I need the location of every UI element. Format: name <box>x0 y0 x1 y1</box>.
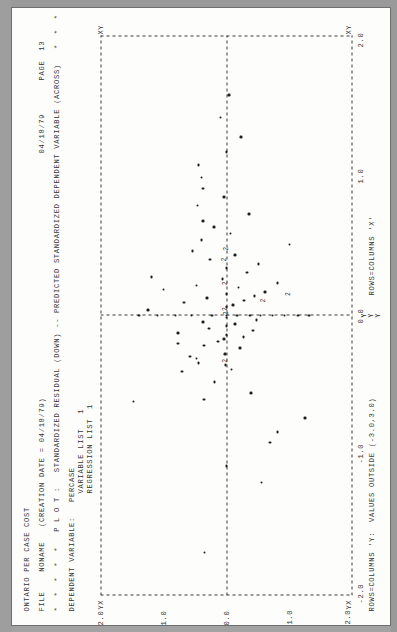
corner-mark-topleft: YX <box>97 600 105 610</box>
page-label: PAGE 13 <box>38 41 47 81</box>
footer-rows-columns-y: ROWS=COLUMNS 'Y: VALUES OUTSIDE (-3.0,3.… <box>368 397 377 611</box>
data-point <box>271 314 274 317</box>
data-point <box>223 196 226 199</box>
overlap-point-marker: 2 <box>222 258 228 262</box>
scan-border-top <box>0 0 397 7</box>
data-point <box>259 314 262 317</box>
data-point <box>297 314 300 317</box>
data-point <box>269 441 272 444</box>
x-tick-label-3: 1.0 <box>357 169 365 184</box>
report-title: ONTARIO PER CASE COST <box>23 507 32 612</box>
y-tick-label-0: 2.0 <box>97 611 105 626</box>
data-point <box>240 135 243 138</box>
file-creation-line: FILE NONAME (CREATION DATE = 04/18/79) <box>38 397 47 611</box>
y-tick-label-4: -2.0 <box>344 610 352 626</box>
data-point <box>189 355 192 358</box>
data-point <box>249 392 252 395</box>
overlap-point-marker: 2 <box>223 281 229 285</box>
data-point <box>242 336 245 339</box>
data-point <box>197 362 200 365</box>
printout-page: ONTARIO PER CASE COST FILE NONAME (CREAT… <box>11 7 391 626</box>
data-point <box>203 398 206 401</box>
data-point <box>237 286 240 289</box>
data-point <box>260 481 263 484</box>
data-point <box>308 314 311 317</box>
data-point <box>177 331 180 334</box>
data-point <box>234 323 237 326</box>
data-point <box>247 213 250 216</box>
data-point <box>239 347 242 350</box>
data-point <box>257 263 260 266</box>
data-point <box>236 314 239 317</box>
data-point <box>150 275 153 278</box>
data-point <box>246 271 249 274</box>
data-point <box>223 338 226 341</box>
data-point <box>229 232 232 235</box>
scan-border-right <box>391 0 397 632</box>
data-point <box>216 340 219 343</box>
overlap-point-marker: 2 <box>223 247 229 251</box>
regression-list-line: REGRESSION LIST 1 <box>86 404 95 494</box>
corner-mark-topright: XY <box>97 25 105 35</box>
data-point <box>202 219 205 222</box>
out-of-range-marker: Y <box>376 314 382 318</box>
residual-scatterplot: YX YX XY XY -2.0 -1.0 0.0 1.0 2.0 2.0 1.… <box>101 36 353 596</box>
variable-list-line: VARIABLE LIST 1 <box>77 409 86 494</box>
data-point <box>195 357 198 360</box>
overlap-point-marker: 2 <box>224 312 230 316</box>
data-point <box>191 250 194 253</box>
data-point <box>255 319 258 322</box>
data-point <box>276 282 279 285</box>
data-point <box>225 151 228 154</box>
data-point <box>202 187 205 190</box>
data-point <box>177 342 180 345</box>
data-point <box>228 93 231 96</box>
y-tick-label-2: 0.0 <box>223 611 231 626</box>
data-point <box>248 314 251 317</box>
data-point <box>206 297 209 300</box>
data-point <box>183 301 186 304</box>
scan-border-bottom <box>0 626 397 632</box>
data-point <box>253 295 256 298</box>
data-point <box>132 400 135 403</box>
scan-border-left <box>0 0 11 632</box>
data-point <box>252 329 255 332</box>
data-point <box>213 381 216 384</box>
overlap-point-marker: 2 <box>286 292 292 296</box>
footer-rows-columns-x: ROWS=COLUMNS 'X' <box>368 216 377 296</box>
data-point <box>200 239 203 242</box>
data-point <box>195 284 198 287</box>
printout-listing: ONTARIO PER CASE COST FILE NONAME (CREAT… <box>13 9 391 626</box>
x-tick-label-1: -1.0 <box>357 444 365 464</box>
data-point <box>234 254 237 257</box>
corner-mark-bottomleft: YX <box>345 600 353 610</box>
y-tick-label-1: 1.0 <box>160 611 168 626</box>
plot-banner-line: * * * * * P L O T : STANDARDIZED RESIDUA… <box>53 7 62 612</box>
data-point <box>276 431 279 434</box>
data-point <box>230 368 233 371</box>
plot-frame-top <box>101 36 102 596</box>
scanned-page-photo: ONTARIO PER CASE COST FILE NONAME (CREAT… <box>0 0 397 632</box>
data-point <box>181 370 184 373</box>
report-date: 04/18/79 <box>38 114 47 154</box>
data-point <box>196 204 199 207</box>
data-point <box>138 314 141 317</box>
data-point <box>197 163 200 166</box>
data-point <box>219 116 222 119</box>
data-point <box>243 299 246 302</box>
data-point <box>202 321 205 324</box>
data-point <box>304 417 307 420</box>
data-point <box>221 278 224 281</box>
plot-frame-bottom <box>352 36 353 596</box>
overlap-point-marker: 2 <box>223 359 229 363</box>
x-tick-label-4: 2.0 <box>357 33 365 48</box>
data-point <box>211 314 214 317</box>
y-tick-label-3: -1.0 <box>286 610 294 626</box>
data-point <box>264 291 267 294</box>
corner-mark-bottomright: XY <box>345 25 353 35</box>
data-point <box>288 243 291 246</box>
data-point <box>213 226 216 229</box>
data-point <box>209 258 212 261</box>
data-point <box>208 327 211 330</box>
data-point <box>203 344 206 347</box>
